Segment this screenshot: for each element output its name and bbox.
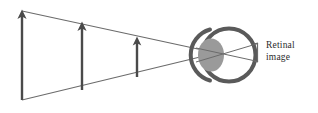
retinal-image-diagram: Retinal image (0, 0, 318, 113)
object-arrow-middle (77, 22, 86, 91)
object-arrow-near (133, 37, 142, 78)
object-arrow-far-left (17, 10, 26, 101)
retinal-image-label-line2: image (266, 52, 290, 62)
retinal-image-label-line1: Retinal (266, 40, 295, 50)
diagram-canvas: Retinal image (0, 0, 318, 113)
